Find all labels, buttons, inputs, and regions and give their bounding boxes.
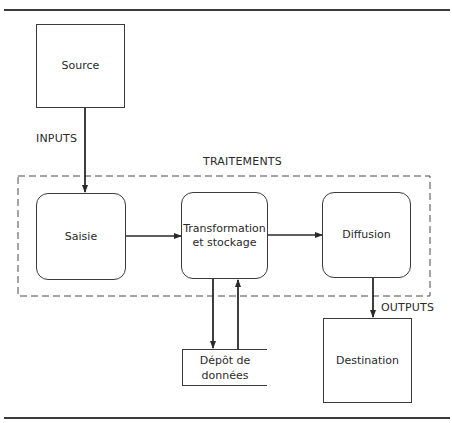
destination-label: Destination (336, 354, 399, 368)
saisie-label: Saisie (65, 230, 97, 244)
transformation-label-line2: et stockage (192, 236, 256, 250)
source-node: Source (36, 24, 125, 108)
bottom-rule (4, 417, 450, 419)
diffusion-label: Diffusion (342, 228, 391, 242)
depot-label-line2: données (202, 368, 249, 383)
source-label: Source (62, 59, 100, 73)
inputs-label: INPUTS (36, 132, 77, 145)
transformation-label-line1: Transformation (183, 222, 266, 236)
transformation-node: Transformation et stockage (181, 192, 268, 279)
depot-node: Dépôt de données (182, 349, 267, 386)
traitements-label: TRAITEMENTS (203, 155, 282, 168)
top-rule (4, 9, 450, 11)
diffusion-node: Diffusion (322, 192, 411, 278)
saisie-node: Saisie (36, 193, 126, 280)
depot-label-line1: Dépôt de (200, 353, 251, 368)
outputs-label: OUTPUTS (381, 301, 434, 314)
destination-node: Destination (323, 318, 412, 403)
